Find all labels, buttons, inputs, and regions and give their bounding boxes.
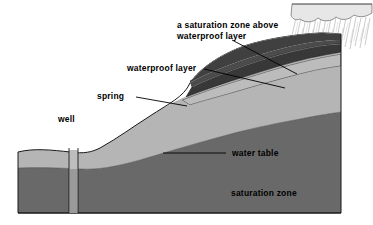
label-water-table: water table bbox=[232, 148, 279, 159]
label-spring: spring bbox=[97, 91, 124, 102]
well-shaft bbox=[69, 148, 78, 213]
label-waterproof-layer: waterproof layer bbox=[127, 63, 196, 74]
label-saturation-zone: saturation zone bbox=[231, 188, 297, 199]
label-well: well bbox=[58, 114, 75, 125]
well-water-column bbox=[70, 169, 77, 213]
groundwater-cross-section-diagram: a saturation zone above waterproof layer… bbox=[0, 0, 373, 225]
label-perched-saturation-zone: a saturation zone above waterproof layer bbox=[177, 20, 278, 41]
